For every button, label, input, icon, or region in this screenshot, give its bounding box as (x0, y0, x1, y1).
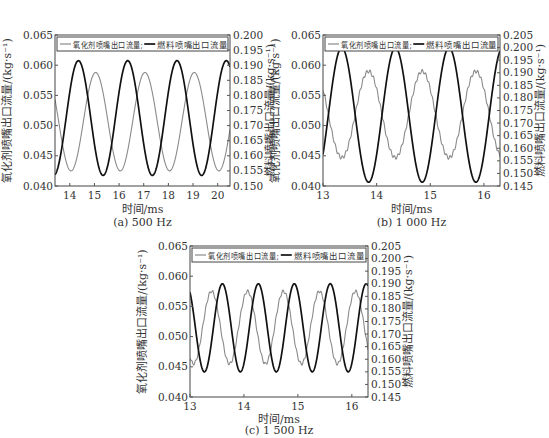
y-right-tick-label: 0.200 (503, 41, 533, 53)
y-left-tick-label: 0.055 (23, 89, 53, 101)
y-left-tick-label: 0.065 (291, 29, 321, 41)
y-right-tick-label: 0.200 (233, 29, 263, 41)
y-right-tick-label: 0.180 (233, 89, 263, 101)
y-left-tick-label: 0.045 (291, 149, 321, 161)
y-right-tick-label: 0.165 (503, 129, 533, 141)
y-right-tick-label: 0.185 (371, 290, 401, 302)
y-right-tick-label: 0.155 (233, 164, 263, 176)
y-right-tick-label: 0.170 (503, 117, 533, 129)
x-tick-label: 18 (162, 189, 175, 201)
y-right-tick-label: 0.160 (503, 142, 533, 154)
y-right-tick-label: 0.165 (233, 134, 263, 146)
y-left-tick-label: 0.060 (23, 59, 53, 71)
x-tick-label: 20 (211, 189, 224, 201)
legend-fuel-label: 燃料喷嘴出口流量 (157, 40, 227, 50)
y-left-tick-label: 0.055 (158, 300, 188, 312)
legend-fuel-label: 燃料喷嘴出口流量 (294, 251, 365, 261)
legend-fuel-label: 燃料喷嘴出口流量 (426, 40, 497, 50)
y-left-tick-label: 0.045 (23, 149, 53, 161)
y-right-tick-label: 0.145 (503, 180, 533, 192)
y-left-tick-label: 0.040 (158, 391, 188, 403)
y-right-tick-label: 0.185 (503, 79, 533, 91)
y-left-axis-title: 氧化剂喷嘴出口流量/(kg·s⁻¹) (268, 38, 282, 182)
legend-oxidizer-label: 氧化剂喷嘴出口流量; (341, 40, 412, 50)
y-right-tick-label: 0.190 (233, 59, 263, 71)
panel-caption: (c) 1 500 Hz (245, 424, 314, 437)
x-tick-label: 15 (88, 189, 101, 201)
y-right-tick-label: 0.170 (233, 119, 263, 131)
y-left-tick-label: 0.050 (158, 330, 188, 342)
x-tick-label: 15 (291, 400, 304, 412)
y-right-tick-label: 0.155 (503, 154, 533, 166)
y-left-tick-label: 0.040 (291, 180, 321, 192)
fuel-flow-line (55, 61, 230, 176)
oxidizer-flow-line (55, 72, 230, 170)
y-right-tick-label: 0.170 (371, 328, 401, 340)
y-left-tick-label: 0.045 (158, 360, 188, 372)
y-right-tick-label: 0.160 (233, 149, 263, 161)
y-right-tick-label: 0.195 (233, 44, 263, 56)
y-left-tick-label: 0.060 (158, 270, 188, 282)
legend: 氧化剂喷嘴出口流量;燃料喷嘴出口流量 (57, 37, 228, 51)
legend-oxidizer-label: 氧化剂喷嘴出口流量; (208, 251, 279, 261)
fuel-flow-line (323, 48, 500, 183)
plot-frame (190, 246, 368, 397)
y-right-tick-label: 0.190 (371, 277, 401, 289)
y-right-tick-label: 0.190 (503, 66, 533, 78)
x-tick-label: 16 (345, 400, 359, 412)
y-right-tick-label: 0.155 (371, 365, 401, 377)
y-right-tick-label: 0.145 (371, 391, 401, 403)
y-right-axis-title: 燃料喷嘴出口流量/(kg·s⁻¹) (533, 44, 547, 177)
y-left-tick-label: 0.065 (158, 240, 188, 252)
y-right-tick-label: 0.195 (503, 54, 533, 66)
y-left-tick-label: 0.055 (291, 89, 321, 101)
legend: 氧化剂喷嘴出口流量;燃料喷嘴出口流量 (192, 248, 366, 262)
y-right-tick-label: 0.150 (371, 378, 401, 390)
y-left-tick-label: 0.050 (23, 119, 53, 131)
y-right-tick-label: 0.160 (371, 353, 401, 365)
y-right-tick-label: 0.195 (371, 265, 401, 277)
y-right-tick-label: 0.175 (233, 104, 263, 116)
x-tick-label: 14 (237, 400, 251, 412)
panel-caption: (a) 500 Hz (113, 216, 172, 229)
plot-frame (55, 35, 230, 186)
y-right-tick-label: 0.180 (371, 302, 401, 314)
y-right-tick-label: 0.175 (371, 315, 401, 327)
y-right-tick-label: 0.205 (371, 240, 401, 252)
y-right-tick-label: 0.205 (503, 29, 533, 41)
panel-caption: (b) 1 000 Hz (377, 216, 447, 229)
y-right-tick-label: 0.185 (233, 74, 263, 86)
plot-frame (323, 35, 500, 186)
x-tick-label: 16 (112, 189, 126, 201)
y-right-tick-label: 0.150 (233, 180, 263, 192)
y-right-tick-label: 0.165 (371, 340, 401, 352)
x-axis-title: 时间/ms (122, 203, 164, 216)
y-right-axis-title: 燃料喷嘴出口流量/(kg·s⁻¹) (401, 255, 415, 388)
legend: 氧化剂喷嘴出口流量;燃料喷嘴出口流量 (325, 37, 498, 51)
chart-panel-b: 氧化剂喷嘴出口流量;燃料喷嘴出口流量131415160.0400.0450.05… (268, 29, 547, 230)
chart-panel-c: 氧化剂喷嘴出口流量;燃料喷嘴出口流量131415160.0400.0450.05… (135, 240, 415, 438)
x-tick-label: 16 (477, 189, 491, 201)
oxidizer-flow-line (323, 70, 500, 160)
y-left-tick-label: 0.065 (23, 29, 53, 41)
x-tick-label: 14 (370, 189, 384, 201)
y-right-tick-label: 0.200 (371, 252, 401, 264)
x-tick-label: 17 (137, 189, 150, 201)
y-left-tick-label: 0.050 (291, 119, 321, 131)
y-right-tick-label: 0.180 (503, 91, 533, 103)
chart-panel-a: 氧化剂喷嘴出口流量;燃料喷嘴出口流量141516171819200.0400.0… (0, 29, 277, 230)
x-tick-label: 15 (424, 189, 437, 201)
x-tick-label: 14 (63, 189, 77, 201)
y-left-tick-label: 0.060 (291, 59, 321, 71)
y-left-axis-title: 氧化剂喷嘴出口流量/(kg·s⁻¹) (0, 38, 14, 182)
y-left-tick-label: 0.040 (23, 180, 53, 192)
y-right-tick-label: 0.175 (503, 104, 533, 116)
x-tick-label: 19 (186, 189, 199, 201)
y-right-tick-label: 0.150 (503, 167, 533, 179)
x-axis-title: 时间/ms (391, 203, 433, 216)
figure: 氧化剂喷嘴出口流量;燃料喷嘴出口流量141516171819200.0400.0… (0, 0, 549, 438)
legend-oxidizer-label: 氧化剂喷嘴出口流量; (73, 40, 143, 50)
y-left-axis-title: 氧化剂喷嘴出口流量/(kg·s⁻¹) (135, 249, 149, 393)
